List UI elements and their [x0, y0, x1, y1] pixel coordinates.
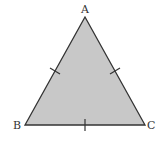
vertex-label-a: A [80, 3, 90, 16]
triangle-abc [25, 17, 145, 125]
vertex-label-c: C [147, 119, 155, 132]
triangle-diagram: A B C [0, 0, 161, 142]
vertex-label-b: B [13, 119, 21, 132]
